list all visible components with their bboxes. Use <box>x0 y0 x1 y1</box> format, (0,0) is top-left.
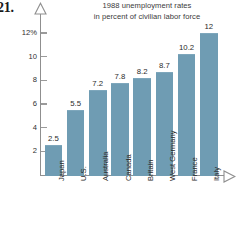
bar <box>200 33 218 176</box>
bar-value-label: 8.7 <box>150 61 180 70</box>
x-axis-category-label: U.S. <box>79 166 88 181</box>
chart-title-line-1: 1988 unemployment rates <box>52 1 242 12</box>
y-axis-tick <box>41 32 47 33</box>
y-axis-tick <box>41 103 47 104</box>
x-axis-category-label: Japan <box>57 160 66 181</box>
chart-title-line-2: in percent of civilian labor force <box>52 12 242 23</box>
y-axis-tick-label: 12% <box>0 28 37 37</box>
x-axis-category-label: Australia <box>101 151 110 181</box>
bar-value-label: 5.5 <box>61 99 91 108</box>
y-axis-tick <box>41 56 47 57</box>
x-axis-category-label: West Germany <box>168 131 177 182</box>
bar-value-label: 10.2 <box>172 43 202 52</box>
x-axis-arrow-icon <box>223 169 236 187</box>
y-axis-tick <box>41 80 47 81</box>
x-axis-category-label: Italy <box>212 167 221 181</box>
problem-number: 21. <box>0 0 14 16</box>
y-axis-tick <box>41 127 47 128</box>
y-axis-tick-label: 8 <box>0 75 37 84</box>
y-axis-tick-label: 10 <box>0 52 37 61</box>
y-axis-tick-label: 4 <box>0 123 37 132</box>
unemployment-bar-chart-figure: 21. 1988 unemployment rates in percent o… <box>0 0 247 227</box>
x-axis-category-label: Canada <box>124 154 133 181</box>
y-axis-arrow-icon <box>34 1 47 19</box>
y-axis-tick-label: 2 <box>0 146 37 155</box>
x-axis-category-label: France <box>190 157 199 181</box>
bar-value-label: 2.5 <box>39 134 69 143</box>
x-axis-category-label: Britain <box>146 159 155 181</box>
y-axis-tick-label: 6 <box>0 99 37 108</box>
chart-title: 1988 unemployment rates in percent of ci… <box>52 1 242 22</box>
bar-value-label: 12 <box>194 22 224 31</box>
